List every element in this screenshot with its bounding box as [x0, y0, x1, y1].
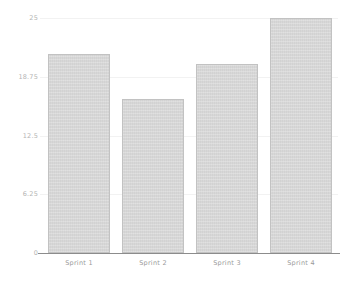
- plot-area: [40, 18, 338, 253]
- bars-layer: [40, 18, 338, 253]
- bar-sprint-3[interactable]: [196, 64, 258, 253]
- bar-sprint-2[interactable]: [122, 99, 184, 253]
- x-tick-label-sprint-1: Sprint 1: [65, 259, 93, 267]
- y-tick-label-18-75: 18.75: [0, 73, 38, 81]
- x-tick-label-sprint-3: Sprint 3: [213, 259, 241, 267]
- bar-chart: 25 18.75 12.5 6.25 0 Sprint 1 Sprint 2 S…: [0, 0, 346, 286]
- y-tick-label-12-5: 12.5: [0, 132, 38, 140]
- x-axis-line: [38, 253, 340, 254]
- y-tick-label-6-25: 6.25: [0, 190, 38, 198]
- bar-sprint-1[interactable]: [48, 54, 110, 253]
- x-tick-label-sprint-4: Sprint 4: [287, 259, 315, 267]
- bar-sprint-4[interactable]: [270, 18, 332, 253]
- y-tick-label-25: 25: [0, 14, 38, 22]
- y-tick-label-0: 0: [0, 249, 38, 257]
- x-tick-label-sprint-2: Sprint 2: [139, 259, 167, 267]
